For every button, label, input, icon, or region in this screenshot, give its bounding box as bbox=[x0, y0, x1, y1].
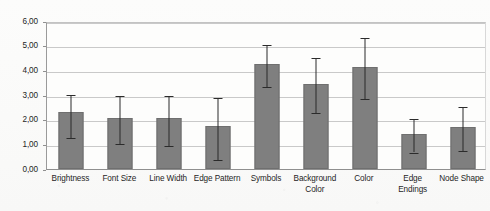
error-bar-cap-upper bbox=[360, 38, 369, 39]
error-bar-cap-lower bbox=[165, 146, 174, 147]
plot-area bbox=[46, 22, 486, 170]
bar-group[interactable] bbox=[438, 23, 487, 169]
error-bar-line bbox=[364, 38, 365, 100]
error-bar-line bbox=[462, 107, 463, 151]
x-axis-tick-label: Symbols bbox=[242, 174, 291, 185]
error-bar-cap-lower bbox=[214, 160, 223, 161]
error-bar-line bbox=[266, 45, 267, 87]
y-axis-tick-label: 6,00 bbox=[0, 17, 38, 26]
error-bar-cap-lower bbox=[458, 151, 467, 152]
error-bar-cap-upper bbox=[214, 98, 223, 99]
error-bar-cap-lower bbox=[360, 99, 369, 100]
y-axis-tick-label: 5,00 bbox=[0, 41, 38, 50]
error-bar-cap-upper bbox=[262, 45, 271, 46]
error-bar-cap-lower bbox=[311, 113, 320, 114]
bar-group[interactable] bbox=[243, 23, 292, 169]
x-axis-tick-label: Edge Endings bbox=[388, 174, 437, 195]
error-bar-line bbox=[169, 96, 170, 147]
y-axis-tick-mark bbox=[43, 170, 46, 171]
bar-chart-figure: 0,001,002,003,004,005,006,00BrightnessFo… bbox=[0, 0, 490, 211]
y-axis-tick-mark bbox=[43, 46, 46, 47]
x-axis-tick-label: Color bbox=[339, 174, 388, 185]
error-bar-cap-upper bbox=[409, 119, 418, 120]
error-bar-line bbox=[120, 96, 121, 144]
bar-group[interactable] bbox=[96, 23, 145, 169]
y-axis-tick-mark bbox=[43, 96, 46, 97]
bar-group[interactable] bbox=[47, 23, 96, 169]
error-bar-cap-lower bbox=[262, 87, 271, 88]
error-bar-cap-upper bbox=[165, 96, 174, 97]
y-axis-tick-mark bbox=[43, 22, 46, 23]
y-axis-tick-label: 0,00 bbox=[0, 165, 38, 174]
error-bar-cap-lower bbox=[67, 138, 76, 139]
x-axis-tick-label: Brightness bbox=[46, 174, 95, 185]
error-bar-cap-upper bbox=[67, 95, 76, 96]
x-axis-tick-label: Background Color bbox=[290, 174, 339, 195]
error-bar-cap-upper bbox=[458, 107, 467, 108]
y-axis-tick-mark bbox=[43, 71, 46, 72]
bar-group[interactable] bbox=[389, 23, 438, 169]
error-bar-line bbox=[71, 95, 72, 138]
x-axis-tick-label: Node Shape bbox=[437, 174, 486, 185]
error-bar-line bbox=[315, 58, 316, 114]
y-axis-tick-label: 3,00 bbox=[0, 91, 38, 100]
bar-group[interactable] bbox=[194, 23, 243, 169]
y-axis-tick-mark bbox=[43, 145, 46, 146]
bar-group[interactable] bbox=[291, 23, 340, 169]
y-axis-tick-label: 1,00 bbox=[0, 140, 38, 149]
error-bar-cap-upper bbox=[311, 58, 320, 59]
error-bar-cap-lower bbox=[409, 153, 418, 154]
error-bar-cap-lower bbox=[116, 144, 125, 145]
y-axis-tick-label: 2,00 bbox=[0, 115, 38, 124]
x-axis-tick-label: Edge Pattern bbox=[193, 174, 242, 185]
error-bar-line bbox=[218, 98, 219, 160]
error-bar-cap-upper bbox=[116, 96, 125, 97]
bar-group[interactable] bbox=[340, 23, 389, 169]
bar-group[interactable] bbox=[145, 23, 194, 169]
error-bar-line bbox=[413, 119, 414, 152]
x-axis-tick-label: Font Size bbox=[95, 174, 144, 185]
y-axis-tick-label: 4,00 bbox=[0, 66, 38, 75]
x-axis-tick-label: Line Width bbox=[144, 174, 193, 185]
y-axis-tick-mark bbox=[43, 120, 46, 121]
